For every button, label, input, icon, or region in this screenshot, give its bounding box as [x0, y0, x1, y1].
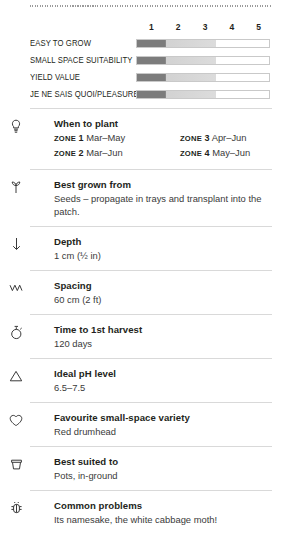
rating-bar: [136, 39, 270, 48]
rating-bar-fill: [137, 57, 216, 64]
section-inner: When to plantZONE 1 Mar–MayZONE 3 Apr–Ju…: [30, 117, 272, 161]
section-body: Pots, in-ground: [54, 469, 272, 482]
pot-icon: [8, 456, 24, 472]
rating-bar-fill: [137, 74, 216, 81]
plant-profile-card: 12345 EASY TO GROWSMALL SPACE SUITABILIT…: [0, 0, 291, 552]
section-body: Seeds – propagate in trays and transplan…: [54, 192, 272, 218]
top-dotted-divider: [30, 5, 272, 7]
section-body: Red drumhead: [54, 425, 272, 438]
zone-tag: ZONE: [54, 134, 76, 143]
rating-row: SMALL SPACE SUITABILITY: [30, 52, 272, 68]
section-inner: Common problemsIts namesake, the white c…: [30, 499, 272, 526]
zone-number: 4: [205, 148, 210, 158]
section-title: When to plant: [54, 117, 272, 130]
rating-scale-number: 2: [172, 22, 184, 32]
detail-section: When to plantZONE 1 Mar–MayZONE 3 Apr–Ju…: [30, 109, 272, 169]
rating-bar: [136, 56, 270, 65]
rating-label: JE NE SAIS QUOI/PLEASURE: [30, 90, 130, 99]
rating-scale-number: 3: [199, 22, 211, 32]
planting-zones: ZONE 1 Mar–MayZONE 3 Apr–JunZONE 2 Mar–J…: [54, 131, 272, 161]
rating-row: JE NE SAIS QUOI/PLEASURE: [30, 86, 272, 102]
down-arrow-icon: [8, 236, 24, 252]
detail-sections: When to plantZONE 1 Mar–MayZONE 3 Apr–Ju…: [30, 108, 272, 534]
zone-months: May–Jun: [212, 147, 250, 158]
seedling-icon: [8, 179, 24, 195]
detail-section: Depth1 cm (½ in): [30, 227, 272, 270]
zone-number: 2: [79, 148, 84, 158]
rating-rows: EASY TO GROWSMALL SPACE SUITABILITYYIELD…: [30, 35, 272, 102]
section-inner: Spacing60 cm (2 ft): [30, 279, 272, 306]
section-title: Best suited to: [54, 455, 272, 468]
zone-number: 1: [79, 133, 84, 143]
zone-entry: ZONE 3 Apr–Jun: [180, 131, 272, 146]
section-title: Time to 1st harvest: [54, 323, 272, 336]
rating-bar: [136, 73, 270, 82]
rating-bar: [136, 90, 270, 99]
section-body: 6.5–7.5: [54, 381, 272, 394]
rating-row: YIELD VALUE: [30, 69, 272, 85]
zone-tag: ZONE: [180, 149, 202, 158]
zone-months: Mar–May: [86, 132, 125, 143]
heart-icon: [8, 412, 24, 428]
rating-bar-fill: [137, 40, 216, 47]
section-title: Ideal pH level: [54, 367, 272, 380]
section-inner: Time to 1st harvest120 days: [30, 323, 272, 350]
bug-icon: [8, 500, 24, 516]
detail-section: Best grown fromSeeds – propagate in tray…: [30, 170, 272, 226]
section-title: Favourite small-space variety: [54, 411, 272, 424]
section-inner: Ideal pH level6.5–7.5: [30, 367, 272, 394]
zone-number: 3: [205, 133, 210, 143]
zone-tag: ZONE: [180, 134, 202, 143]
zone-entry: ZONE 4 May–Jun: [180, 146, 272, 161]
zone-entry: ZONE 1 Mar–May: [54, 131, 180, 146]
section-title: Spacing: [54, 279, 272, 292]
detail-section: Time to 1st harvest120 days: [30, 315, 272, 358]
rating-scale-number: 1: [145, 22, 157, 32]
rating-label: SMALL SPACE SUITABILITY: [30, 56, 130, 65]
rating-scale-header: 12345: [138, 22, 272, 35]
zigzag-icon: [8, 280, 24, 296]
detail-section: Common problemsIts namesake, the white c…: [30, 491, 272, 534]
zone-months: Apr–Jun: [212, 132, 247, 143]
section-body: 60 cm (2 ft): [54, 293, 272, 306]
ratings-block: 12345 EASY TO GROWSMALL SPACE SUITABILIT…: [30, 22, 272, 103]
rating-row: EASY TO GROW: [30, 35, 272, 51]
detail-section: Spacing60 cm (2 ft): [30, 271, 272, 314]
stopwatch-icon: [8, 324, 24, 340]
section-inner: Depth1 cm (½ in): [30, 235, 272, 262]
bulb-icon: [8, 118, 24, 134]
detail-section: Best suited toPots, in-ground: [30, 447, 272, 490]
section-body: Its namesake, the white cabbage moth!: [54, 513, 272, 526]
zone-entry: ZONE 2 Mar–Jun: [54, 146, 180, 161]
rating-bar-fill: [137, 91, 216, 98]
rating-label: EASY TO GROW: [30, 39, 130, 48]
rating-scale-number: 4: [226, 22, 238, 32]
section-title: Common problems: [54, 499, 272, 512]
zone-months: Mar–Jun: [86, 147, 122, 158]
section-body: 120 days: [54, 337, 272, 350]
section-title: Depth: [54, 235, 272, 248]
section-inner: Best grown fromSeeds – propagate in tray…: [30, 178, 272, 218]
section-inner: Favourite small-space varietyRed drumhea…: [30, 411, 272, 438]
rating-scale-number: 5: [253, 22, 265, 32]
section-inner: Best suited toPots, in-ground: [30, 455, 272, 482]
detail-section: Ideal pH level6.5–7.5: [30, 359, 272, 402]
section-title: Best grown from: [54, 178, 272, 191]
detail-section: Favourite small-space varietyRed drumhea…: [30, 403, 272, 446]
rating-label: YIELD VALUE: [30, 73, 130, 82]
zone-tag: ZONE: [54, 149, 76, 158]
triangle-icon: [8, 368, 24, 384]
section-body: 1 cm (½ in): [54, 249, 272, 262]
